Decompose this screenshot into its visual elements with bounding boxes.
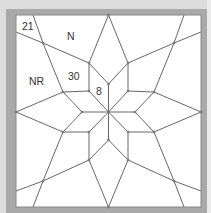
vertex-marker bbox=[107, 206, 109, 208]
vertex-marker bbox=[88, 131, 90, 133]
quilt-star-diagram: 21 N NR 30 8 bbox=[0, 0, 211, 213]
label-8: 8 bbox=[96, 85, 102, 97]
vertex-marker bbox=[15, 111, 17, 113]
label-30: 30 bbox=[68, 70, 80, 82]
vertex-marker bbox=[107, 111, 109, 113]
vertex-marker bbox=[62, 91, 64, 93]
vertex-marker bbox=[173, 180, 175, 182]
vertex-marker bbox=[127, 159, 129, 161]
vertex-marker bbox=[88, 90, 90, 92]
vertex-marker bbox=[153, 131, 155, 133]
label-21: 21 bbox=[22, 20, 34, 32]
vertex-marker bbox=[134, 111, 136, 113]
vertex-marker bbox=[107, 14, 109, 16]
vertex-marker bbox=[88, 62, 90, 64]
vertex-marker bbox=[107, 139, 109, 141]
vertex-marker bbox=[81, 111, 83, 113]
vertex-marker bbox=[42, 42, 44, 44]
vertex-marker bbox=[62, 131, 64, 133]
vertex-marker bbox=[127, 62, 129, 64]
vertex-marker bbox=[173, 42, 175, 44]
label-nr: NR bbox=[29, 75, 45, 87]
vertex-marker bbox=[200, 111, 202, 113]
vertex-marker bbox=[153, 91, 155, 93]
vertex-marker bbox=[127, 90, 129, 92]
vertex-marker bbox=[107, 83, 109, 85]
label-n: N bbox=[67, 30, 75, 42]
vertex-marker bbox=[88, 159, 90, 161]
vertex-marker bbox=[42, 180, 44, 182]
vertex-marker bbox=[127, 131, 129, 133]
